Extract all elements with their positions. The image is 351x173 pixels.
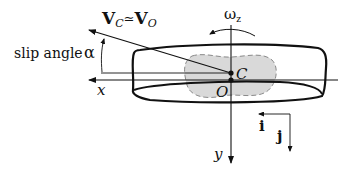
- unit-i-label: i: [259, 117, 265, 135]
- x-axis-label: x: [97, 81, 106, 99]
- velocity-vector: [89, 30, 231, 73]
- unit-j-label: j: [275, 127, 282, 145]
- alpha-symbol: α: [84, 43, 95, 62]
- slip-angle-arc: [101, 39, 104, 72]
- yaw-rate-arrow: [210, 29, 255, 36]
- point-o-dot: [228, 77, 233, 82]
- y-axis-label: y: [213, 145, 223, 163]
- slip-angle-diagram: VC≃VO slip angle α ωz C O x y i j: [0, 0, 351, 173]
- point-c-label: C: [236, 65, 248, 83]
- yaw-rate-label: ωz: [224, 5, 241, 24]
- velocity-label: VC≃VO: [101, 8, 157, 30]
- point-c-dot: [228, 70, 233, 75]
- contact-patch: [185, 55, 277, 98]
- slip-angle-label: slip angle: [14, 45, 83, 61]
- point-o-label: O: [216, 83, 228, 101]
